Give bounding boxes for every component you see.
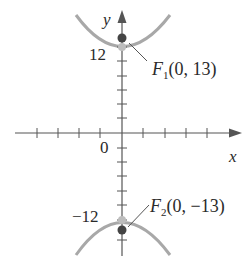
y-tick-label-neg12: −12 (72, 207, 99, 226)
y-axis-arrow-icon (118, 10, 127, 23)
focus-f1-dot (118, 34, 127, 43)
upper-vertex-dot (118, 43, 126, 51)
focus-f2-dot (118, 226, 127, 235)
x-axis (15, 128, 242, 138)
x-axis-label: x (228, 147, 237, 166)
focus-f2-label: F2(0, −13) (149, 196, 225, 218)
hyperbola-diagram: y x 0 12 −12 F1(0, 13) F2(0, −13) (0, 0, 250, 260)
y-tick-label-12: 12 (89, 45, 106, 64)
x-axis-arrow-icon (229, 129, 242, 138)
f2-leader-line (128, 205, 149, 227)
lower-vertex-dot (118, 216, 126, 224)
y-axis-label: y (101, 10, 111, 29)
focus-f1-label: F1(0, 13) (151, 59, 217, 81)
f1-leader-line (129, 43, 147, 61)
origin-label: 0 (100, 138, 109, 157)
